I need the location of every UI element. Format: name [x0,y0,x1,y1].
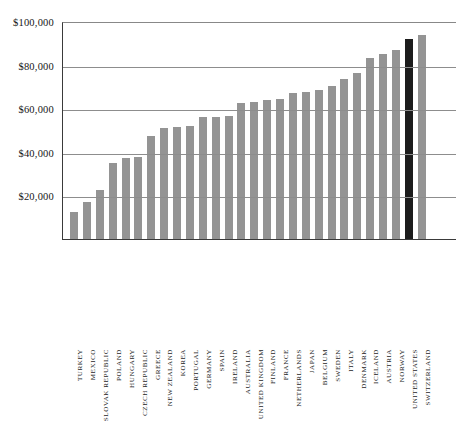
bar [379,54,387,240]
gridline [63,67,456,68]
x-axis-tick-label: FRANCE [282,349,290,380]
x-axis-tick-label: TURKEY [76,349,84,381]
gridline [63,110,456,111]
y-axis-tick-label: $100,000 [13,17,54,28]
bar [302,92,310,240]
x-axis-tick-label: KOREA [179,349,187,376]
gridline [63,197,456,198]
bar [134,157,142,240]
x-axis-line [62,239,456,240]
x-axis-tick-label: SPAIN [218,349,226,372]
bars-layer [63,23,456,240]
y-axis-tick-label: $20,000 [18,191,54,202]
bar [173,127,181,240]
y-axis-tick-label: $60,000 [18,104,54,115]
x-axis-tick-label: DENMARK [360,349,368,389]
y-axis: $20,000$40,000$60,000$80,000$100,000 [0,0,58,246]
bar [353,73,361,240]
bar [147,136,155,240]
gridline [63,154,456,155]
bar [70,212,78,240]
x-axis-tick-label: BELGIUM [321,349,329,385]
bar [237,103,245,240]
bar [263,100,271,240]
bar [315,90,323,240]
x-axis-tick-label: NEW ZEALAND [166,349,174,406]
bar [83,202,91,240]
x-axis-tick-label: UNITED STATES [411,349,419,409]
bar [392,50,400,240]
x-axis-tick-label: CZECH REPUBLIC [141,349,149,416]
plot-area [62,22,456,240]
x-axis-tick-label: AUSTRALIA [244,349,252,394]
x-axis-tick-label: PORTUGAL [192,349,200,391]
bar [109,163,117,240]
y-axis-tick-label: $80,000 [18,60,54,71]
bar [340,79,348,240]
x-axis-tick-label: ICELAND [372,349,380,384]
x-axis-tick-label: IRELAND [231,349,239,384]
x-axis: TURKEYMEXICOSLOVAK REPUBLICPOLANDHUNGARY… [0,243,463,354]
x-axis-tick-label: UNITED KINGDOM [257,349,265,419]
x-axis-tick-label: JAPAN [308,349,316,373]
bar [366,58,374,240]
bar [250,102,258,240]
bar [276,99,284,240]
x-axis-tick-label: ITALY [347,349,355,372]
x-axis-tick-label: GERMANY [205,349,213,389]
x-axis-tick-label: SWEDEN [334,349,342,382]
x-axis-tick-label: NETHERLANDS [295,349,303,407]
bar [122,158,130,240]
bar [289,93,297,240]
x-axis-tick-label: MEXICO [89,349,97,380]
bar [225,116,233,240]
x-axis-tick-label: POLAND [115,349,123,381]
x-axis-tick-label: SLOVAK REPUBLIC [102,349,110,421]
x-axis-tick-label: AUSTRIA [385,349,393,384]
x-axis-tick-label: FINLAND [269,349,277,384]
x-axis-tick-label: HUNGARY [128,349,136,388]
bar [212,117,220,240]
bar [160,128,168,240]
bar [199,117,207,240]
bar-highlight [405,39,413,240]
x-axis-tick-label: SWITZERLAND [424,349,432,406]
x-axis-tick-label: NORWAY [398,349,406,382]
y-axis-tick-label: $40,000 [18,147,54,158]
bar [186,126,194,240]
x-axis-tick-label: GREECE [154,349,162,380]
